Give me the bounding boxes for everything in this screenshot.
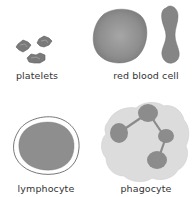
- phagocyte-label: phagocyte: [118, 183, 174, 194]
- lymphocyte-illustration: [14, 117, 80, 175]
- lymphocyte-label: lymphocyte: [16, 183, 76, 194]
- diagram-canvas: [0, 0, 195, 197]
- platelets-illustration: [16, 36, 52, 63]
- blood-cells-diagram: platelets red blood cell lymphocyte phag…: [0, 0, 195, 197]
- red-blood-cell-label: red blood cell: [106, 70, 186, 81]
- platelets-label: platelets: [12, 70, 62, 81]
- red-blood-cell-side-illustration: [162, 6, 180, 63]
- phagocyte-illustration: [102, 102, 189, 181]
- red-blood-cell-face-illustration: [93, 9, 147, 63]
